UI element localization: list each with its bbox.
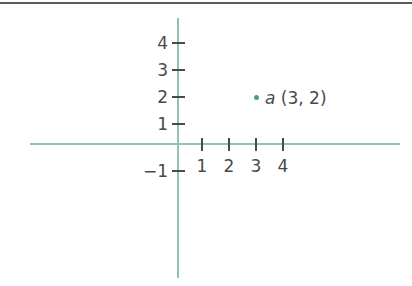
x-axis-tick-4	[282, 138, 284, 151]
x-axis-tick-2	[228, 138, 230, 151]
y-axis-line	[177, 18, 179, 278]
x-axis-tick-3	[255, 138, 257, 151]
y-axis-label-1: 1	[128, 116, 168, 133]
x-axis-label-2: 2	[217, 158, 241, 175]
top-divider	[0, 2, 412, 4]
data-point-a	[254, 95, 259, 100]
y-axis-tick-2	[172, 96, 185, 98]
y-axis-tick-minus-1	[172, 170, 185, 172]
coordinate-plane-figure: 1 2 3 4 4 3 2 1 −1 a (3, 2)	[0, 0, 412, 286]
data-point-a-name: a	[265, 88, 275, 108]
y-axis-tick-3	[172, 69, 185, 71]
x-axis-tick-1	[201, 138, 203, 151]
y-axis-label-3: 3	[128, 62, 168, 79]
x-axis-line	[30, 143, 400, 145]
x-axis-label-4: 4	[271, 158, 295, 175]
y-axis-label-4: 4	[128, 35, 168, 52]
y-axis-tick-1	[172, 123, 185, 125]
y-axis-tick-4	[172, 42, 185, 44]
x-axis-label-1: 1	[190, 158, 214, 175]
data-point-a-label: a (3, 2)	[265, 90, 327, 107]
data-point-a-coords: (3, 2)	[281, 88, 327, 108]
y-axis-label-2: 2	[128, 89, 168, 106]
x-axis-label-3: 3	[244, 158, 268, 175]
y-axis-label-minus-1: −1	[128, 163, 168, 180]
